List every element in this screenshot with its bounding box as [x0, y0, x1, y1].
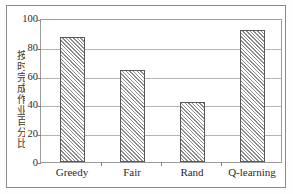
y-tick-mark-0: [37, 163, 41, 164]
x-tick-label-rand: Rand: [180, 165, 203, 179]
y-tick-mark-80: [37, 49, 41, 50]
bar-q-learning: [240, 30, 265, 162]
y-tick-label: 80: [12, 43, 38, 53]
y-tick-label: 60: [12, 72, 38, 82]
y-tick-mark-60: [37, 78, 41, 79]
x-tick-label-greedy: Greedy: [56, 165, 88, 179]
x-axis-tick-labels: Greedy Fair Rand Q-learning: [40, 165, 282, 185]
x-tick-label-fair: Fair: [123, 165, 141, 179]
plot-area: [40, 19, 282, 163]
bar-greedy: [60, 37, 85, 162]
bar-chart-figure: 按时完成作业百分比 100 80 60 40 20 0 Greedy: [0, 0, 293, 194]
y-tick-label: 100: [12, 14, 38, 24]
y-tick-mark-20: [37, 135, 41, 136]
y-tick-mark-40: [37, 106, 41, 107]
y-tick-label: 20: [12, 129, 38, 139]
y-axis-tick-labels: 100 80 60 40 20 0: [8, 0, 38, 194]
y-tick-label: 40: [12, 100, 38, 110]
y-tick-label: 0: [12, 158, 38, 168]
x-tick-label-q-learning: Q-learning: [228, 165, 276, 179]
bar-rand: [180, 102, 205, 162]
bar-fair: [120, 70, 145, 162]
y-tick-mark-100: [37, 20, 41, 21]
